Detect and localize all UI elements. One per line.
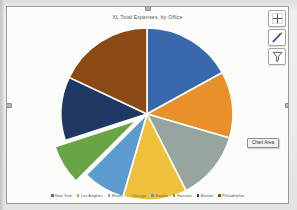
legend-label: Boston bbox=[201, 193, 213, 198]
legend-swatch bbox=[127, 194, 130, 197]
legend-swatch bbox=[197, 194, 200, 197]
legend-item[interactable]: Miami bbox=[108, 193, 123, 198]
legend-item[interactable]: Houston bbox=[173, 193, 192, 198]
legend-label: Philadelphia bbox=[222, 193, 244, 198]
legend-swatch bbox=[51, 194, 54, 197]
legend-item[interactable]: Boston bbox=[197, 193, 214, 198]
legend-label: Miami bbox=[112, 193, 123, 198]
chart-filters-button[interactable] bbox=[268, 48, 286, 65]
chart-object[interactable]: XL Total Expenses, by Office bbox=[6, 6, 289, 204]
legend-label: Chicago bbox=[132, 193, 147, 198]
legend-swatch bbox=[218, 194, 221, 197]
legend-label: Seattle bbox=[155, 193, 167, 198]
plot-area[interactable] bbox=[7, 7, 288, 203]
chart-area-tooltip: Chart Area bbox=[247, 138, 279, 148]
legend-swatch bbox=[77, 194, 80, 197]
chart-legend[interactable]: New YorkLos AngelesMiamiChicagoSeattleHo… bbox=[7, 193, 288, 198]
pie-chart[interactable] bbox=[7, 7, 288, 203]
chart-elements-button[interactable] bbox=[268, 10, 286, 27]
legend-label: Los Angeles bbox=[81, 193, 103, 198]
legend-item[interactable]: New York bbox=[51, 193, 72, 198]
legend-item[interactable]: Philadelphia bbox=[218, 193, 244, 198]
brush-icon bbox=[272, 32, 283, 43]
legend-label: New York bbox=[55, 193, 72, 198]
chart-buttons-group[interactable] bbox=[268, 10, 286, 65]
legend-label: Houston bbox=[177, 193, 192, 198]
legend-swatch bbox=[151, 194, 154, 197]
funnel-icon bbox=[272, 51, 283, 62]
legend-item[interactable]: Seattle bbox=[151, 193, 168, 198]
legend-item[interactable]: Chicago bbox=[127, 193, 146, 198]
legend-swatch bbox=[108, 194, 111, 197]
legend-item[interactable]: Los Angeles bbox=[77, 193, 103, 198]
chart-styles-button[interactable] bbox=[268, 29, 286, 46]
legend-swatch bbox=[173, 194, 176, 197]
plus-icon bbox=[272, 13, 283, 24]
